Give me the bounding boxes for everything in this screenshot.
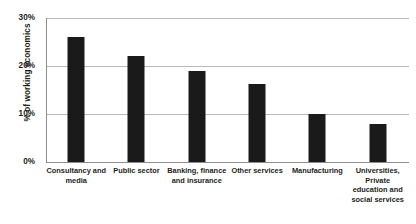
x-label-0: Consultancy andmedia	[43, 166, 109, 185]
x-label-4: Manufacturing	[284, 166, 350, 176]
x-label-5: Universities,Privateeducation andsocial …	[345, 166, 411, 204]
bar-slot-5	[348, 18, 408, 162]
bar-series	[46, 18, 408, 162]
x-label-line: Banking, finance	[164, 166, 230, 176]
bar-slot-1	[106, 18, 166, 162]
x-label-2: Banking, financeand insurance	[164, 166, 230, 185]
y-tick-label-10: 10%	[0, 110, 35, 118]
x-label-line: Manufacturing	[284, 166, 350, 176]
x-label-line: social services	[345, 195, 411, 205]
x-label-line: Public sector	[104, 166, 170, 176]
bar-universities-private-education-and-social-services	[369, 124, 386, 162]
x-label-line: Private	[345, 176, 411, 186]
y-tick-label-0: 0%	[0, 158, 35, 166]
bar-chart: % of working economics 30% 20% 10% 0% Co…	[0, 0, 416, 224]
x-label-line: and insurance	[164, 176, 230, 186]
bar-banking-finance-and-insurance	[188, 71, 205, 162]
x-axis-labels: Consultancy andmedia Public sector Banki…	[46, 166, 408, 224]
bar-other-services	[249, 84, 266, 162]
x-label-line: Consultancy and	[43, 166, 109, 176]
x-label-1: Public sector	[104, 166, 170, 176]
bar-public-sector	[128, 56, 145, 162]
x-label-line: Universities,	[345, 166, 411, 176]
x-label-line: media	[43, 176, 109, 186]
bar-consultancy-and-media	[68, 37, 85, 162]
bar-manufacturing	[309, 114, 326, 162]
y-tick-label-30: 30%	[0, 14, 35, 22]
x-label-line: Other services	[224, 166, 290, 176]
bar-slot-0	[46, 18, 106, 162]
y-tick-label-20: 20%	[0, 62, 35, 70]
x-label-line: education and	[345, 185, 411, 195]
bar-slot-2	[167, 18, 227, 162]
x-label-3: Other services	[224, 166, 290, 176]
bar-slot-3	[227, 18, 287, 162]
bar-slot-4	[287, 18, 347, 162]
